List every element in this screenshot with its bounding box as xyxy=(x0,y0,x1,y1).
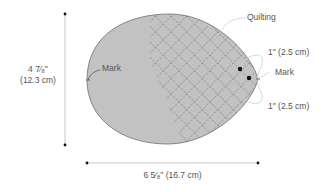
dimension-endpoint-dot xyxy=(86,162,89,165)
diagram-canvas xyxy=(0,0,335,192)
dimension-endpoint-dot xyxy=(257,162,260,165)
mark-left-label: Mark xyxy=(102,63,121,74)
height-inches: 4 7⁄₈" xyxy=(16,64,60,75)
height-cm: (12.3 cm) xyxy=(16,75,60,86)
right-mark-leader xyxy=(258,72,270,79)
quilting-label: Quilting xyxy=(247,12,276,23)
mark-dot-lower xyxy=(247,76,251,80)
offset-bottom-label: 1" (2.5 cm) xyxy=(268,101,309,112)
width-label: 6 5⁄₈" (16.7 cm) xyxy=(120,170,225,181)
height-dimension-line xyxy=(64,13,67,147)
offset-top-label: 1" (2.5 cm) xyxy=(268,47,309,58)
quilting-leader-line xyxy=(222,18,246,30)
dimension-endpoint-dot xyxy=(64,144,67,147)
mark-right-label: Mark xyxy=(275,67,294,78)
dimension-endpoint-dot xyxy=(64,13,67,16)
width-dimension-line xyxy=(86,162,260,165)
height-label: 4 7⁄₈" (12.3 cm) xyxy=(16,64,60,86)
mark-dot-upper xyxy=(238,67,242,71)
